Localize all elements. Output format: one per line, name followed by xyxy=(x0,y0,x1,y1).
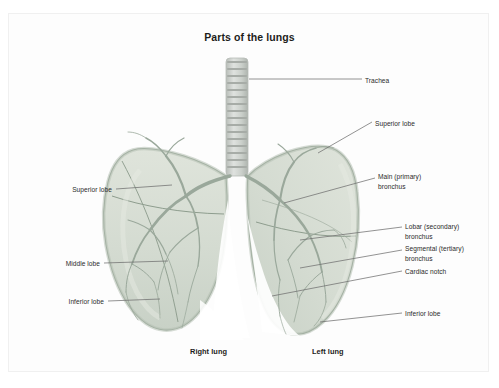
label-right-lung: Right lung xyxy=(190,347,227,357)
leader-superior-lobe-right xyxy=(318,122,372,153)
label-segmental-bronchus: Segmental (tertiary) bronchus xyxy=(405,244,464,263)
label-lobar-bronchus: Lobar (secondary) bronchus xyxy=(405,222,459,241)
label-left-lung: Left lung xyxy=(312,347,344,357)
lung-diagram-figure: Parts of the lungs Trachea Superior lobe… xyxy=(0,0,499,388)
label-cardiac-notch: Cardiac notch xyxy=(405,267,446,277)
page-title: Parts of the lungs xyxy=(0,31,499,43)
label-middle-lobe: Middle lobe xyxy=(0,259,100,269)
label-inferior-lobe-right: Inferior lobe xyxy=(405,309,440,319)
label-inferior-lobe-left: Inferior lobe xyxy=(4,297,104,307)
label-main-bronchus: Main (primary) bronchus xyxy=(378,172,421,191)
label-trachea: Trachea xyxy=(365,76,389,86)
label-superior-lobe-left: Superior lobe xyxy=(12,185,112,195)
right-lung-shape xyxy=(104,148,227,330)
label-superior-lobe-right: Superior lobe xyxy=(375,119,415,129)
trachea-shape xyxy=(226,58,248,176)
